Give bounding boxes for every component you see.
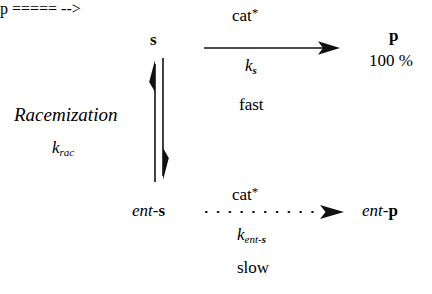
top-reaction-catalyst: cat* bbox=[232, 6, 258, 24]
bottom-catalyst-star: * bbox=[252, 184, 259, 199]
bottom-reaction-speed: slow bbox=[237, 259, 269, 276]
solid-arrow-icon bbox=[204, 41, 340, 55]
species-substrate-label: s bbox=[150, 30, 157, 49]
reaction-scheme-diagram: s ent-s Racemization krac p ===== --> ca… bbox=[0, 0, 432, 294]
top-reaction-arrow bbox=[204, 41, 340, 55]
species-product: p bbox=[389, 27, 398, 44]
product-yield-text: 100 % bbox=[369, 51, 413, 70]
top-rate-subscript: s bbox=[253, 64, 257, 76]
racemization-rate-subscript: rac bbox=[60, 146, 75, 158]
bottom-reaction-catalyst: cat* bbox=[232, 185, 258, 203]
racemization-rate-constant: krac bbox=[52, 139, 74, 156]
racemization-label-text: Racemization bbox=[14, 104, 117, 125]
species-ent-substrate-prefix: ent- bbox=[132, 201, 158, 220]
top-catalyst-text: cat bbox=[232, 6, 252, 25]
top-reaction-speed: fast bbox=[239, 96, 264, 113]
dotted-arrow-icon bbox=[204, 205, 344, 219]
species-substrate: s bbox=[150, 31, 157, 48]
bottom-reaction-arrow bbox=[204, 205, 344, 219]
top-rate-symbol: k bbox=[245, 56, 253, 75]
bottom-rate-subscript: ent-s bbox=[245, 233, 266, 245]
species-ent-substrate-label: s bbox=[158, 201, 165, 220]
racemization-label: Racemization bbox=[14, 105, 117, 124]
species-ent-substrate: ent-s bbox=[132, 202, 165, 219]
bottom-catalyst-text: cat bbox=[232, 185, 252, 204]
product-yield: 100 % bbox=[369, 52, 413, 69]
racemization-equilibrium-arrows bbox=[146, 58, 174, 182]
racemization-rate-symbol: k bbox=[52, 138, 60, 157]
bottom-speed-text: slow bbox=[237, 258, 269, 277]
species-ent-product-label: p bbox=[388, 201, 397, 220]
bottom-rate-symbol: k bbox=[237, 225, 245, 244]
harpoon-up-icon bbox=[149, 60, 155, 182]
top-speed-text: fast bbox=[239, 95, 264, 114]
top-catalyst-star: * bbox=[252, 5, 259, 20]
species-ent-product: ent-p bbox=[362, 202, 398, 219]
bottom-reaction-rate-constant: kent-s bbox=[237, 226, 266, 243]
top-reaction-rate-constant: ks bbox=[245, 57, 257, 74]
species-ent-product-prefix: ent- bbox=[362, 201, 388, 220]
harpoon-down-icon bbox=[163, 58, 169, 180]
species-product-label: p bbox=[389, 26, 398, 45]
